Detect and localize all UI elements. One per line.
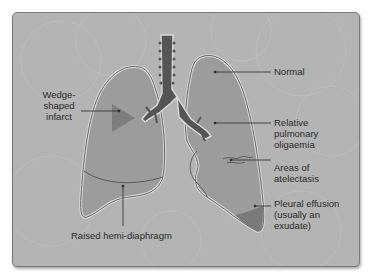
label-normal: Normal — [274, 66, 305, 77]
label-oligaemia: Relative pulmonary oligaemia — [274, 117, 318, 150]
left-lung — [185, 55, 263, 231]
label-atelectasis: Areas of atelectasis — [274, 162, 319, 184]
label-raised-hemidiaphragm: Raised hemi-diaphragm — [71, 230, 172, 241]
label-wedge-infarct: Wedge- shaped infarct — [35, 89, 83, 122]
label-pleural-effusion: Pleural effusion (usually an exudate) — [274, 198, 339, 231]
diagram-frame: Wedge- shaped infarct Normal Relative pu… — [12, 12, 360, 267]
